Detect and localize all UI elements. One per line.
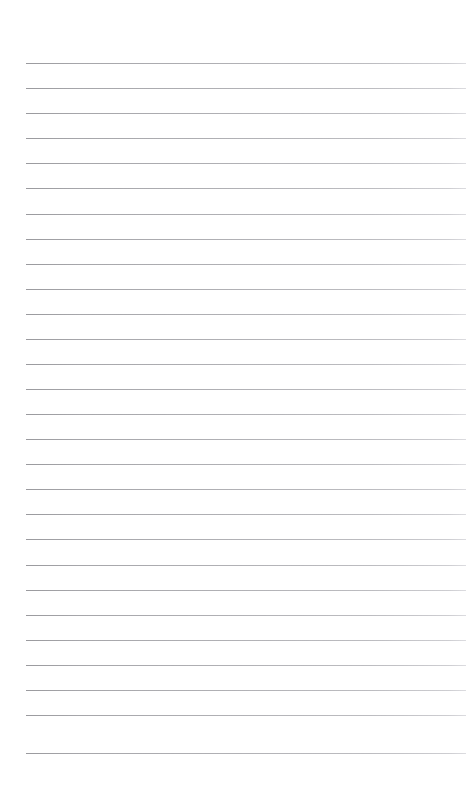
ruled-paper-page: Blank lined notebook page	[0, 0, 473, 794]
writing-area[interactable]	[0, 0, 473, 794]
